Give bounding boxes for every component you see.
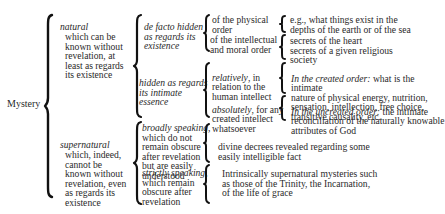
intellectual-moral-order: of the intellectual and moral order — [210, 35, 277, 54]
supernatural-desc: which, indeed, cannot be known without r… — [65, 150, 126, 208]
divine-decrees-example: divine decrees revealed regarding some e… — [218, 142, 370, 161]
physical-example: e.g., what things exist in the depths of… — [290, 15, 411, 34]
physical-order: of the physical order — [212, 15, 268, 34]
intrinsic-mysteries-example: Intrinsically supernatural mysteries suc… — [222, 169, 377, 198]
physical-brace — [279, 15, 287, 33]
absolutely: absolutely, for any created intellect wh… — [212, 95, 284, 133]
uncreated-order-example: In the uncreated order: the intimate rec… — [291, 97, 444, 135]
intellectual-brace — [279, 34, 287, 60]
strictly-speaking: strictly speaking, which remain obscure … — [142, 168, 208, 206]
intellectual-example: secrets of the heart secrets of a given … — [290, 36, 393, 65]
strictly-speaking-desc: which remain obscure after revelation — [142, 178, 208, 207]
absolutely-brace — [279, 95, 287, 121]
natural-desc: which can be known without revelation, a… — [65, 32, 124, 80]
relatively-brace — [279, 62, 287, 94]
hidden-essence-brace — [203, 62, 211, 118]
broadly-brace — [203, 123, 211, 163]
de-facto-hidden-title: de facto hidden as regards its existence — [144, 22, 203, 51]
hidden-essence-title: hidden as regards its intimate essence — [139, 78, 208, 107]
strictly-brace — [203, 164, 211, 204]
root-brace — [44, 14, 54, 198]
root-label: Mystery — [7, 99, 40, 109]
